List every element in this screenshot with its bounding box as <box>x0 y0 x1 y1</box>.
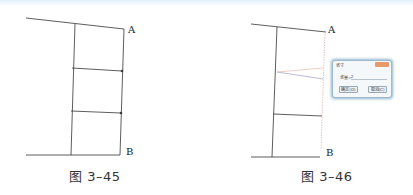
dart-line-lower <box>277 72 323 79</box>
figure-3-45-drawing <box>26 18 124 155</box>
horizontal-line <box>273 114 322 116</box>
horizontal-2 <box>71 111 121 113</box>
right-vertical-highlight <box>321 32 325 150</box>
inner-vertical <box>71 24 75 155</box>
point-a-label: A <box>128 24 135 35</box>
point-b-label: B <box>326 147 333 158</box>
ok-button[interactable]: 确定(O) <box>339 86 358 93</box>
dart-amount-dialog: 省寸 省量= 确定(O) 取消(C) <box>332 60 392 98</box>
dialog-title: 省寸 <box>336 62 344 68</box>
figure-caption: 图 3–45 <box>69 166 120 185</box>
inner-vertical <box>272 27 277 157</box>
horizontal-1 <box>72 68 122 71</box>
close-button[interactable] <box>375 62 389 67</box>
figure-caption: 图 3–46 <box>301 166 352 185</box>
figure-3-46-drawing <box>251 24 326 157</box>
dart-line-upper <box>277 68 323 72</box>
dart-amount-label: 省量= <box>340 74 351 80</box>
point-a-label: A <box>328 24 335 35</box>
right-vertical <box>120 29 124 155</box>
point-b-label: B <box>126 146 133 157</box>
top-line <box>251 24 326 32</box>
dart-amount-input[interactable] <box>351 73 387 80</box>
point-marker <box>120 112 122 114</box>
cancel-button[interactable]: 取消(C) <box>368 86 387 93</box>
point-marker <box>121 70 123 72</box>
